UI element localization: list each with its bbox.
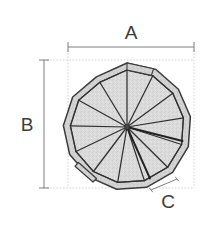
dimension-a: A: [68, 22, 194, 52]
dimension-b: B: [21, 60, 49, 188]
dimension-c-label: C: [161, 191, 175, 212]
technical-drawing-canvas: A B: [0, 0, 210, 225]
staircase-body: [63, 63, 190, 189]
center-hub: [125, 125, 130, 130]
spiral-staircase-drawing: A B: [0, 0, 210, 225]
dimension-c-tick-start: [149, 188, 153, 192]
dimension-c-tick-end: [175, 177, 179, 181]
dimension-b-label: B: [21, 114, 34, 135]
dimension-a-label: A: [125, 22, 138, 43]
